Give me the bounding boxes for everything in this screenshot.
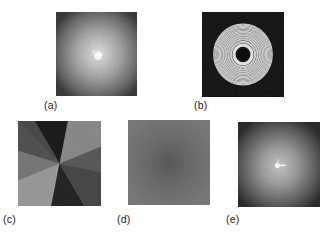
fringe-dark-center xyxy=(237,49,248,61)
panel-label-b: (b) xyxy=(194,100,207,111)
panel-label-e: (e) xyxy=(226,214,239,225)
panel-label-a: (a) xyxy=(44,100,57,111)
noise-image-d xyxy=(128,120,210,205)
image-panel-e xyxy=(238,122,320,207)
fringe-rings-image-b xyxy=(202,12,284,97)
speckle-image-e xyxy=(238,122,320,207)
image-panel-b xyxy=(202,12,284,97)
image-panel-c xyxy=(18,121,101,206)
image-panel-a xyxy=(56,12,137,96)
panel-label-d: (d) xyxy=(117,214,130,225)
speckle-image-a xyxy=(56,12,137,96)
phase-map-image-c xyxy=(18,121,101,206)
image-panel-d xyxy=(128,120,210,205)
panel-label-c: (c) xyxy=(3,214,16,225)
